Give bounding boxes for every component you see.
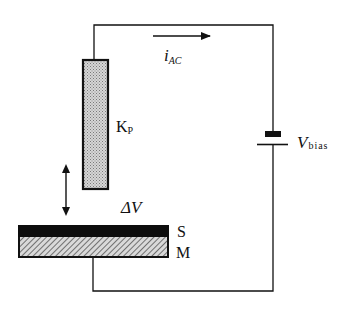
battery-short-plate: [265, 131, 281, 137]
kelvin-probe-circuit-diagram: Vbias iAC KP ΔV S M: [0, 0, 351, 310]
current-label: iAC: [164, 46, 182, 66]
sample-surface-layer: [18, 225, 169, 237]
sample-stack: [18, 225, 169, 257]
potential-difference-label: ΔV: [120, 198, 144, 217]
sample-metal-layer: [19, 235, 168, 257]
kelvin-probe-tip: [83, 60, 108, 189]
metal-label: M: [176, 244, 190, 261]
surface-label: S: [177, 223, 186, 240]
probe-label: KP: [116, 118, 134, 136]
wire-right-lower: [93, 144, 273, 291]
battery-symbol: [257, 131, 288, 145]
vibration-double-arrow-icon: [62, 164, 70, 216]
bias-voltage-label: Vbias: [297, 133, 329, 152]
